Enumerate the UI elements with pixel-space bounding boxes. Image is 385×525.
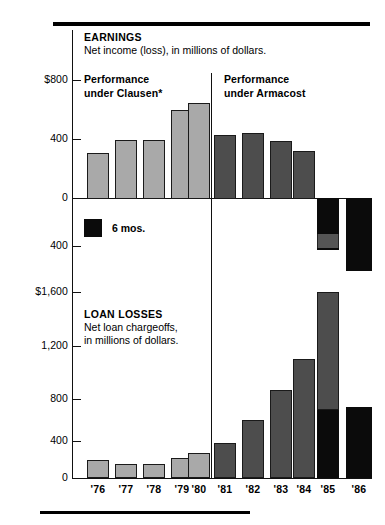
- ylabel-loanlosses-400: 400: [50, 435, 68, 446]
- ylabel-loanlosses-0-wrap: 0: [0, 472, 68, 483]
- bar-earnings-76: [87, 153, 109, 199]
- bar-loanlosses-80: [188, 453, 210, 478]
- bar-loanlosses-78: [143, 464, 165, 478]
- y-axis-line: [72, 30, 73, 479]
- ylabel-earnings-0-wrap: 0: [0, 192, 68, 203]
- bar-earnings-81: [214, 135, 236, 199]
- bar-loanlosses-86: [346, 407, 372, 478]
- tick-earnings-neg400: [72, 246, 81, 247]
- loanlosses-title-block: LOAN LOSSES Net loan chargeoffs, in mill…: [84, 308, 179, 347]
- bar-loanlosses-76: [87, 460, 109, 478]
- loanlosses-subheading-2: in millions of dollars.: [84, 334, 179, 347]
- bar-earnings-85: [317, 198, 339, 250]
- loanlosses-subheading-1: Net loan chargeoffs,: [84, 321, 179, 334]
- bar-earnings-84: [293, 151, 315, 199]
- earnings-subheading: Net income (loss), in millions of dollar…: [84, 44, 266, 57]
- ylabel-loanlosses-1600-wrap: $1,600: [0, 286, 68, 297]
- xlabel-86: '86: [346, 483, 372, 495]
- ylabel-earnings-neg400-wrap: 400: [0, 240, 68, 251]
- ylabel-earnings-neg400: 400: [50, 240, 68, 251]
- infographic-figure: EARNINGS Net income (loss), in millions …: [0, 0, 385, 525]
- legend-swatch-icon: [84, 219, 102, 237]
- ylabel-earnings-0: 0: [62, 192, 68, 203]
- ylabel-loanlosses-800-wrap: 800: [0, 393, 68, 404]
- legend-label: 6 mos.: [112, 222, 145, 234]
- ylabel-earnings-800-wrap: $800: [0, 74, 68, 85]
- bar-earnings-77: [115, 140, 137, 199]
- ylabel-earnings-400-wrap: 400: [0, 133, 68, 144]
- ylabel-loanlosses-0: 0: [62, 472, 68, 483]
- xlabel-80: '80: [186, 483, 212, 495]
- xlabel-77: '77: [113, 483, 139, 495]
- bar-loanlosses-85-six-month-segment: [317, 410, 339, 478]
- bar-loanlosses-85: [317, 292, 339, 478]
- tick-earnings-0: [72, 198, 81, 199]
- bar-earnings-83: [270, 141, 292, 199]
- tick-loanlosses-0: [72, 478, 81, 479]
- earnings-heading: EARNINGS: [84, 31, 266, 44]
- ylabel-earnings-800: $800: [44, 74, 68, 85]
- bar-loanlosses-77: [115, 464, 137, 478]
- legend-six-months: 6 mos.: [84, 219, 145, 237]
- ylabel-loanlosses-1600: $1,600: [35, 286, 68, 297]
- era-label-armacost: Performance under Armacost: [224, 73, 306, 100]
- xlabel-81: '81: [212, 483, 238, 495]
- bar-earnings-85-six-month-segment: [317, 234, 339, 248]
- tick-earnings-800: [72, 80, 81, 81]
- era-divider-line: [211, 73, 212, 479]
- bar-earnings-82: [242, 133, 264, 199]
- era-label-clausen: Performance under Clausen*: [84, 73, 162, 100]
- tick-earnings-400: [72, 139, 81, 140]
- bar-earnings-78: [143, 140, 165, 199]
- xlabel-76: '76: [85, 483, 111, 495]
- bar-loanlosses-85-remainder: [317, 292, 339, 410]
- bar-loanlosses-84: [293, 359, 315, 478]
- earnings-title-block: EARNINGS Net income (loss), in millions …: [84, 31, 266, 57]
- loanlosses-heading: LOAN LOSSES: [84, 308, 179, 321]
- loanlosses-baseline: [72, 478, 372, 479]
- tick-loanlosses-800: [72, 399, 81, 400]
- bar-earnings-86: [346, 198, 372, 271]
- ylabel-loanlosses-400-wrap: 400: [0, 435, 68, 446]
- tick-loanlosses-1200: [72, 346, 81, 347]
- tick-loanlosses-1600: [72, 292, 81, 293]
- bar-earnings-80: [188, 103, 210, 199]
- bar-loanlosses-83: [270, 390, 292, 478]
- ylabel-earnings-400: 400: [50, 133, 68, 144]
- ylabel-loanlosses-1200-wrap: 1,200: [0, 340, 68, 351]
- xlabel-78: '78: [141, 483, 167, 495]
- ylabel-loanlosses-800: 800: [50, 393, 68, 404]
- xlabel-82: '82: [240, 483, 266, 495]
- bottom-rule: [40, 511, 250, 514]
- ylabel-loanlosses-1200: 1,200: [41, 340, 68, 351]
- xlabel-85: '85: [315, 483, 341, 495]
- xlabel-84: '84: [291, 483, 317, 495]
- bar-loanlosses-82: [242, 420, 264, 478]
- tick-loanlosses-400: [72, 441, 81, 442]
- bar-loanlosses-81: [214, 443, 236, 478]
- top-rule: [53, 22, 370, 26]
